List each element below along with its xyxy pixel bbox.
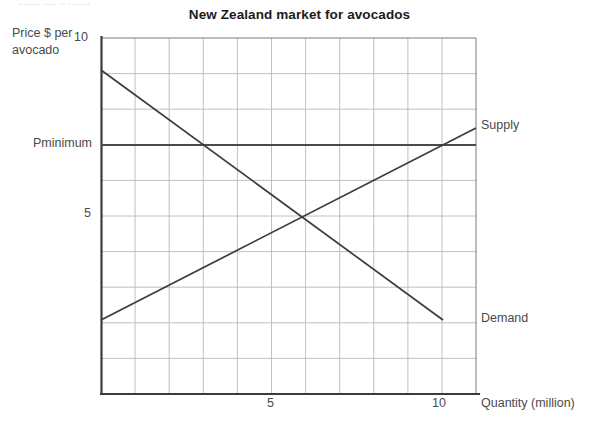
supply-line [101,128,476,320]
chart-screenshot: ........ ..... .. ........ New Zealand m… [0,0,599,437]
horizontal-gridlines [101,74,476,359]
demand-line [101,70,443,320]
plot-area [0,0,599,437]
